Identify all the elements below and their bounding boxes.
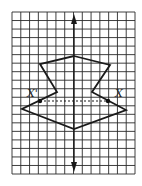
label-x-prime: X' <box>26 87 38 100</box>
reflection-diagram: X' X <box>0 0 142 186</box>
point-x-prime <box>38 99 42 103</box>
label-x: X <box>114 87 124 100</box>
point-x <box>106 99 110 103</box>
